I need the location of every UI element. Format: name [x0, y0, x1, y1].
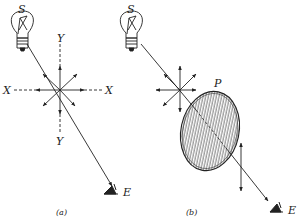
light-bulb-icon: [120, 11, 142, 51]
source-label: S: [127, 3, 135, 16]
caption-b: (b): [186, 208, 197, 217]
caption-a: (a): [56, 208, 67, 217]
axis-label-y-bottom: Y: [56, 135, 65, 148]
eye-label: E: [122, 186, 131, 199]
source-label: S: [18, 3, 26, 16]
axis-label-y-top: Y: [57, 32, 66, 45]
polarizer-label: P: [213, 77, 222, 90]
eye-icon: [104, 184, 118, 194]
eye-icon: [270, 202, 283, 212]
polarizer: [173, 86, 246, 176]
axis-label-x-left: X: [2, 84, 12, 97]
unpolarized-vectors: [36, 66, 84, 114]
light-ray-transmitted: [226, 148, 268, 201]
panel-a: S X X Y Y: [2, 3, 131, 217]
light-ray-incident: [141, 44, 196, 110]
polarization-diagram: S X X Y Y: [0, 0, 302, 223]
light-bulb-icon: [11, 11, 33, 51]
axis-label-x-right: X: [104, 84, 114, 97]
panel-b: S P: [120, 3, 296, 217]
light-ray: [27, 44, 112, 186]
eye-label: E: [287, 204, 296, 217]
